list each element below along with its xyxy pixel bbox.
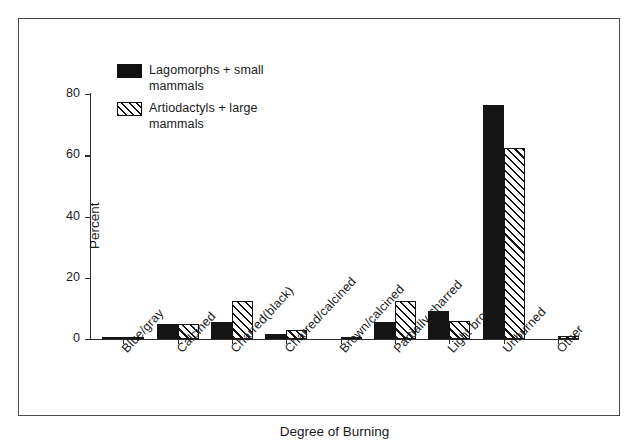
figure-frame: Lagomorphs + small mammals Artiodactyls …: [18, 18, 620, 416]
y-axis-tick-label: 60: [66, 147, 80, 161]
y-axis-tick-label: 80: [66, 86, 80, 100]
bar-group: [537, 94, 579, 339]
bar: [374, 322, 395, 339]
legend-entry: Lagomorphs + small mammals: [117, 63, 347, 94]
x-axis-title: Degree of Burning: [90, 424, 579, 439]
bar: [157, 324, 178, 339]
bar-group: [102, 94, 144, 339]
legend-entry-label: Lagomorphs + small mammals: [149, 63, 264, 94]
bar-group: [157, 94, 199, 339]
y-axis-tick: 80: [85, 94, 90, 95]
bar-group: [211, 94, 253, 339]
bar: [265, 334, 286, 339]
y-axis-tick-label: 20: [66, 270, 80, 284]
solid-black-swatch-icon: [117, 64, 142, 78]
y-axis-tick: 20: [85, 278, 90, 279]
y-axis-tick-label: 40: [66, 209, 80, 223]
y-axis-tick: 0: [85, 339, 90, 340]
y-axis-tick: 60: [85, 155, 90, 156]
bar: [504, 148, 525, 339]
y-axis-title: Percent: [87, 202, 102, 249]
y-axis-tick-label: 0: [73, 331, 80, 345]
bar: [102, 337, 123, 339]
figure: Lagomorphs + small mammals Artiodactyls …: [0, 0, 638, 440]
plot-area: 020406080 Blue/grayCalcinedCharred(black…: [90, 94, 579, 339]
bar: [211, 322, 232, 339]
